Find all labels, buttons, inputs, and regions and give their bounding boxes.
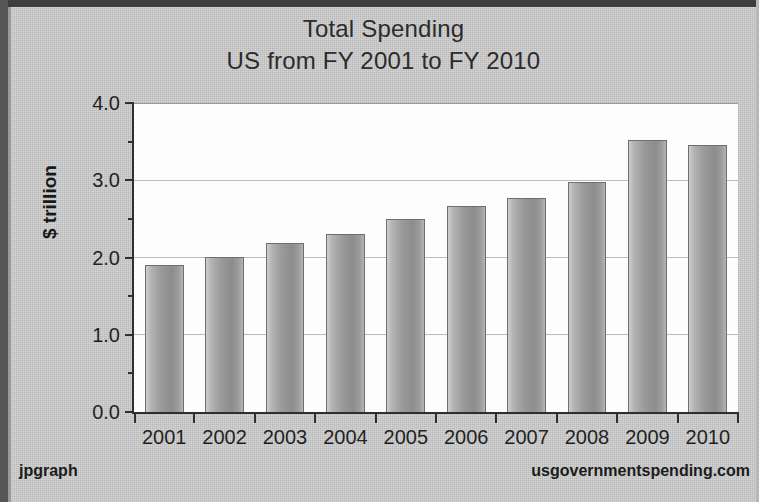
bar-2002 (205, 257, 244, 412)
y-axis-major-tick (125, 334, 134, 336)
x-axis-tick (134, 412, 136, 423)
plot-area: 0.01.02.03.04.02001200220032004200520062… (132, 103, 738, 414)
scan-frame-left-edge (0, 0, 8, 502)
chart-canvas: Total Spending US from FY 2001 to FY 201… (11, 7, 756, 502)
y-axis-tick-label: 1.0 (92, 323, 120, 346)
y-axis-minor-tick (128, 372, 134, 374)
y-axis-minor-tick (128, 141, 134, 143)
x-axis-tick (556, 412, 558, 423)
x-axis-tick (616, 412, 618, 423)
x-axis-tick (435, 412, 437, 423)
x-axis-tick-label: 2001 (142, 426, 187, 449)
x-axis-tick (737, 412, 739, 423)
x-axis-tick (254, 412, 256, 423)
x-axis-tick-label: 2006 (444, 426, 489, 449)
y-axis-major-tick (125, 257, 134, 259)
y-axis-major-tick (125, 102, 134, 104)
x-axis-tick-label: 2007 (504, 426, 549, 449)
chart-title: Total Spending (11, 15, 756, 43)
x-axis-tick (495, 412, 497, 423)
bar-2006 (447, 206, 486, 412)
x-axis-tick (375, 412, 377, 423)
y-axis-tick-label: 3.0 (92, 169, 120, 192)
x-axis-tick-label: 2002 (202, 426, 247, 449)
x-axis-tick-label: 2004 (323, 426, 368, 449)
y-axis-tick-label: 4.0 (92, 92, 120, 115)
x-axis-tick-label: 2010 (686, 426, 731, 449)
plot-inner: 0.01.02.03.04.02001200220032004200520062… (134, 103, 738, 412)
y-axis-major-tick (125, 411, 134, 413)
y-axis-tick-label: 0.0 (92, 401, 120, 424)
x-axis-tick-label: 2009 (625, 426, 670, 449)
chart-screenshot: Total Spending US from FY 2001 to FY 201… (0, 0, 759, 502)
x-axis-tick (677, 412, 679, 423)
bar-2009 (628, 140, 667, 412)
y-axis-title: $ trillion (39, 165, 61, 239)
y-axis-major-tick (125, 179, 134, 181)
chart-library-credit: jpgraph (19, 462, 78, 480)
x-axis-tick (314, 412, 316, 423)
bar-2008 (568, 182, 607, 412)
x-axis-tick-label: 2005 (384, 426, 429, 449)
bar-2005 (386, 219, 425, 412)
scan-frame-top-edge (0, 0, 759, 7)
x-axis-tick-label: 2003 (263, 426, 308, 449)
bar-2003 (266, 243, 305, 412)
bar-2001 (145, 265, 184, 412)
x-axis-tick-label: 2008 (565, 426, 610, 449)
x-axis-tick (193, 412, 195, 423)
chart-source-credit: usgovernmentspending.com (531, 462, 750, 480)
bar-2004 (326, 234, 365, 412)
y-axis-minor-tick (128, 218, 134, 220)
chart-subtitle: US from FY 2001 to FY 2010 (11, 47, 756, 75)
y-axis-tick-label: 2.0 (92, 246, 120, 269)
y-axis-minor-tick (128, 295, 134, 297)
y-gridline (134, 103, 738, 104)
bar-2010 (688, 145, 727, 412)
bar-2007 (507, 198, 546, 412)
